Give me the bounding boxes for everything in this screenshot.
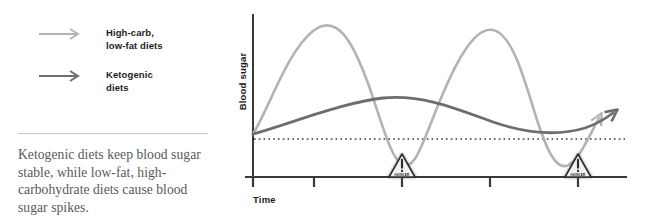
blood-sugar-infographic: High-carb, low-fat diets Ketogenic diets… bbox=[0, 0, 661, 223]
divider bbox=[18, 133, 208, 134]
chart-panel: HUNGER HUNGER Blood sugar Time bbox=[225, 0, 661, 223]
hunger-label: HUNGER bbox=[394, 173, 410, 177]
legend-item-label: Ketogenic diets bbox=[106, 68, 153, 94]
hunger-label: HUNGER bbox=[570, 173, 586, 177]
caption: Ketogenic diets keep blood sugar stable,… bbox=[18, 146, 218, 216]
legend-item-ketogenic: Ketogenic diets bbox=[38, 68, 153, 94]
y-axis-label: Blood sugar bbox=[237, 32, 248, 132]
legend-item-label: High-carb, low-fat diets bbox=[106, 26, 163, 52]
arrow-right-icon bbox=[38, 69, 84, 83]
legend-item-high-carb: High-carb, low-fat diets bbox=[38, 26, 163, 52]
x-axis-label: Time bbox=[253, 194, 276, 205]
blood-sugar-line-chart: HUNGER HUNGER bbox=[225, 0, 661, 223]
x-axis-ticks bbox=[253, 177, 578, 187]
arrow-right-icon bbox=[38, 27, 84, 41]
legend-and-caption-panel: High-carb, low-fat diets Ketogenic diets… bbox=[0, 0, 225, 223]
hunger-marker: HUNGER bbox=[389, 154, 415, 177]
series-high-carb-low-fat bbox=[253, 25, 599, 166]
